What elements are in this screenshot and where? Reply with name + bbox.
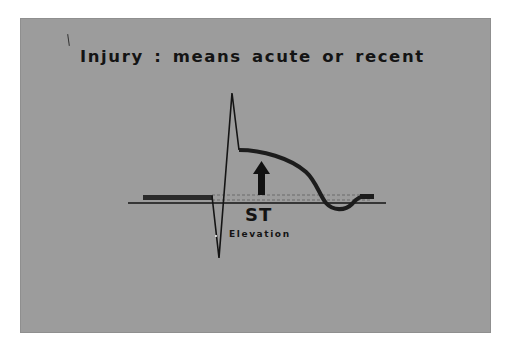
st-label: ST — [245, 204, 272, 225]
elevation-arrow-icon — [253, 161, 270, 195]
ecg-diagram — [0, 0, 511, 356]
pr-segment-bar — [143, 195, 213, 200]
film-speck — [215, 235, 217, 237]
elevation-label: Elevation — [229, 229, 291, 239]
t-wave-end-bar — [360, 194, 374, 199]
